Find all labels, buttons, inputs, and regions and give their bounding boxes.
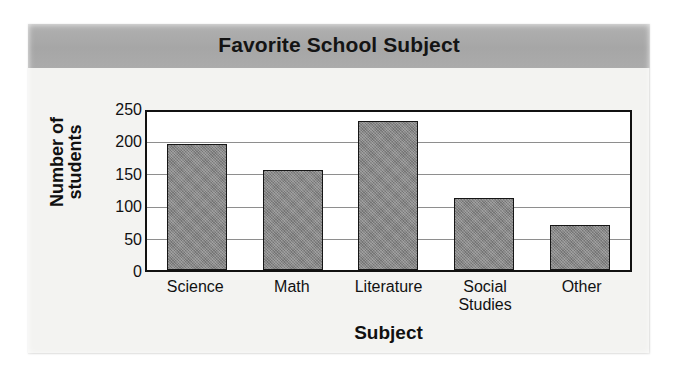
chart-title: Favorite School Subject: [218, 33, 460, 57]
y-axis-tick-200: 200: [90, 134, 142, 150]
bar-series: [147, 112, 630, 270]
bar-slot-literature: [341, 112, 437, 270]
x-axis-title: Subject: [145, 322, 632, 344]
y-axis-tick-0: 0: [90, 264, 142, 280]
y-axis-title: Number of students: [36, 102, 96, 222]
bar-slot-math: [245, 112, 341, 270]
x-axis-tick-line: Social: [437, 278, 534, 296]
y-axis-title-line-2: students: [66, 125, 84, 200]
plot-area: [145, 110, 632, 272]
x-axis-tick-line: Math: [244, 278, 341, 296]
bar-other[interactable]: [550, 225, 610, 270]
scanned-page: Favorite School Subject Number of studen…: [0, 0, 677, 371]
chart-card: Favorite School Subject Number of studen…: [28, 24, 650, 354]
x-axis-tick-line: Literature: [340, 278, 437, 296]
x-axis-tick-line: Science: [147, 278, 244, 296]
y-axis-tick-50: 50: [90, 232, 142, 248]
y-axis-tick-labels: 050100150200250: [90, 110, 142, 272]
bar-chart: Number of students 050100150200250 Scien…: [28, 68, 650, 354]
bar-science[interactable]: [167, 144, 227, 270]
bar-math[interactable]: [263, 170, 323, 270]
bar-slot-science: [149, 112, 245, 270]
x-axis-tick-line: Other: [533, 278, 630, 296]
chart-title-banner: Favorite School Subject: [28, 24, 650, 68]
bar-slot-other: [532, 112, 628, 270]
bar-social-studies[interactable]: [454, 198, 514, 270]
y-axis-tick-100: 100: [90, 199, 142, 215]
y-axis-tick-150: 150: [90, 167, 142, 183]
bar-slot-social-studies: [436, 112, 532, 270]
bar-literature[interactable]: [358, 121, 418, 270]
y-axis-title-line-1: Number of: [48, 117, 66, 207]
x-axis-tick-line: Studies: [437, 296, 534, 314]
y-axis-tick-250: 250: [90, 102, 142, 118]
